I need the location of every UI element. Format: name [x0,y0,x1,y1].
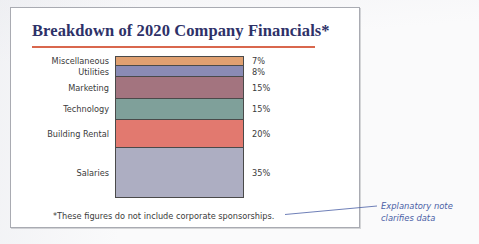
annotation-line-2: clarifies data [381,212,453,224]
category-label: Salaries [32,169,115,177]
category-label: Utilities [32,68,115,76]
chart-segment-row: Utilities8% [32,66,342,77]
category-label: Technology [32,105,115,113]
footnote-text: *These figures do not include corporate … [53,211,274,221]
category-label: Marketing [32,84,115,92]
bar-segment-wrapper [115,56,244,66]
chart-segment-row: Marketing15% [32,77,342,98]
annotation-callout: Explanatory note clarifies data [381,200,453,224]
bar-segment [115,56,244,66]
value-label: 35% [244,169,270,177]
annotation-line-1: Explanatory note [381,200,453,212]
bar-segment [115,148,244,198]
page-title: Breakdown of 2020 Company Financials* [32,21,330,41]
chart-segment-row: Miscellaneous7% [32,56,342,66]
bar-segment [115,120,244,148]
bar-segment-wrapper [115,66,244,77]
value-label: 15% [244,84,270,92]
bar-segment-wrapper [115,77,244,98]
bar-segment-wrapper [115,148,244,198]
figure-slide: Breakdown of 2020 Company Financials* Mi… [10,7,360,228]
bar-segment-wrapper [115,120,244,148]
title-divider [32,46,315,48]
stacked-bar-chart: Miscellaneous7%Utilities8%Marketing15%Te… [32,56,342,198]
value-label: 15% [244,105,270,113]
bar-segment [115,77,244,98]
chart-segment-row: Building Rental20% [32,120,342,148]
value-label: 7% [244,57,265,65]
category-label: Building Rental [32,130,115,138]
bar-segment [115,66,244,77]
chart-segment-row: Salaries35% [32,148,342,198]
bar-segment [115,99,244,120]
chart-segment-row: Technology15% [32,99,342,120]
value-label: 20% [244,130,270,138]
bar-segment-wrapper [115,99,244,120]
value-label: 8% [244,68,265,76]
category-label: Miscellaneous [32,57,115,65]
